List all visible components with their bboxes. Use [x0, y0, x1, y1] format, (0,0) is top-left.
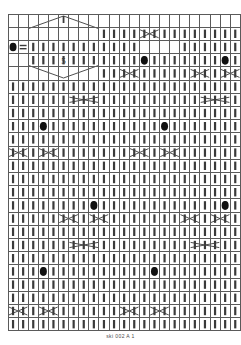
knit-stitch-symbol [174, 175, 176, 183]
knit-stitch-symbol [22, 109, 24, 117]
knit-stitch-symbol [123, 56, 125, 64]
knit-stitch-symbol [174, 307, 176, 315]
knit-stitch-symbol [22, 214, 24, 222]
knit-stitch-symbol [163, 69, 165, 77]
bobble-icon [10, 43, 17, 52]
knit-stitch-symbol [103, 294, 105, 302]
knit-stitch-symbol [113, 241, 115, 249]
knit-stitch-symbol [113, 228, 115, 236]
knit-stitch-symbol [133, 214, 135, 222]
knit-stitch-symbol [143, 294, 145, 302]
knit-stitch-symbol [163, 280, 165, 288]
knit-stitch-symbol [103, 148, 105, 156]
knit-stitch-symbol [123, 148, 125, 156]
knit-stitch-symbol [103, 162, 105, 170]
knit-stitch-symbol [12, 320, 14, 328]
knit-stitch-symbol [174, 320, 176, 328]
knit-stitch-symbol [214, 228, 216, 236]
knit-stitch-symbol [204, 56, 206, 64]
knit-stitch-symbol [93, 162, 95, 170]
knit-stitch-symbol [73, 109, 75, 117]
knit-stitch-symbol [133, 135, 135, 143]
knit-stitch-symbol [194, 254, 196, 262]
knit-stitch-symbol [93, 122, 95, 130]
knit-stitch-symbol [194, 320, 196, 328]
knit-stitch-symbol [204, 228, 206, 236]
knit-stitch-symbol [234, 56, 236, 64]
knit-stitch-symbol [184, 188, 186, 196]
knit-stitch-symbol [143, 228, 145, 236]
knit-stitch-symbol [143, 307, 145, 315]
knit-stitch-symbol [22, 228, 24, 236]
stitch-chart-grid: 5 [0, 0, 241, 345]
knit-stitch-symbol [234, 294, 236, 302]
knit-stitch-symbol [194, 148, 196, 156]
knit-stitch-symbol [224, 162, 226, 170]
knit-stitch-symbol [113, 69, 115, 77]
knit-stitch-symbol [52, 43, 54, 51]
knit-stitch-symbol [103, 175, 105, 183]
knit-stitch-symbol [83, 135, 85, 143]
knit-stitch-symbol [143, 188, 145, 196]
knit-stitch-symbol [32, 228, 34, 236]
knit-stitch-symbol [123, 320, 125, 328]
knit-stitch-symbol [32, 320, 34, 328]
knit-stitch-symbol [113, 175, 115, 183]
knit-stitch-symbol [12, 201, 14, 209]
knit-stitch-symbol [214, 43, 216, 51]
knit-stitch-symbol [83, 109, 85, 117]
knit-stitch-symbol [113, 188, 115, 196]
knit-stitch-symbol [214, 56, 216, 64]
knit-stitch-symbol [174, 135, 176, 143]
knit-stitch-symbol [214, 188, 216, 196]
knit-stitch-symbol [204, 30, 206, 38]
knit-stitch-symbol [22, 267, 24, 275]
knit-stitch-symbol [123, 82, 125, 90]
knit-stitch-symbol [224, 188, 226, 196]
knit-stitch-symbol [214, 307, 216, 315]
knit-stitch-symbol [133, 267, 135, 275]
knit-stitch-symbol [133, 294, 135, 302]
knit-stitch-symbol [163, 109, 165, 117]
knit-stitch-symbol [83, 267, 85, 275]
knit-stitch-symbol [52, 135, 54, 143]
knit-stitch-symbol [234, 214, 236, 222]
knit-stitch-symbol [12, 135, 14, 143]
bobble-icon [40, 122, 47, 131]
knit-stitch-symbol [73, 148, 75, 156]
knit-stitch-symbol [234, 109, 236, 117]
knit-stitch-symbol [184, 122, 186, 130]
knit-stitch-symbol [93, 135, 95, 143]
knit-stitch-symbol [32, 122, 34, 130]
knit-stitch-symbol [184, 82, 186, 90]
knit-stitch-symbol [143, 241, 145, 249]
knit-stitch-symbol [12, 294, 14, 302]
knit-stitch-symbol [93, 280, 95, 288]
knit-stitch-symbol [32, 96, 34, 104]
bobble-icon [222, 56, 229, 65]
knit-stitch-symbol [234, 162, 236, 170]
knit-stitch-symbol [163, 30, 165, 38]
knit-stitch-symbol [163, 294, 165, 302]
knit-stitch-symbol [32, 201, 34, 209]
knit-stitch-symbol [184, 267, 186, 275]
knit-stitch-symbol [42, 214, 44, 222]
knit-stitch-symbol [93, 175, 95, 183]
knit-stitch-symbol [194, 267, 196, 275]
knit-stitch-symbol [194, 280, 196, 288]
knit-stitch-symbol [42, 228, 44, 236]
knit-stitch-symbol [123, 109, 125, 117]
knit-stitch-symbol [204, 201, 206, 209]
knit-stitch-symbol [73, 267, 75, 275]
knit-stitch-symbol [133, 254, 135, 262]
knit-stitch-symbol [234, 30, 236, 38]
knit-stitch-symbol [83, 201, 85, 209]
knit-stitch-symbol [73, 320, 75, 328]
knit-stitch-symbol [163, 320, 165, 328]
knit-stitch-symbol [32, 82, 34, 90]
knit-stitch-symbol [234, 188, 236, 196]
knit-stitch-symbol [214, 201, 216, 209]
knit-stitch-symbol [83, 122, 85, 130]
knit-stitch-symbol [153, 254, 155, 262]
knit-stitch-symbol [133, 43, 135, 51]
